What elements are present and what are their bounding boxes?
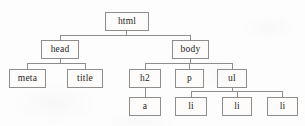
node-label: meta bbox=[18, 74, 37, 84]
node-title[interactable]: title bbox=[67, 69, 103, 88]
node-label: h2 bbox=[140, 74, 150, 84]
node-label: p bbox=[187, 74, 192, 84]
node-h2[interactable]: h2 bbox=[129, 69, 161, 88]
node-label: body bbox=[181, 45, 201, 55]
node-label: li bbox=[188, 102, 194, 112]
edge-head-bus bbox=[27, 63, 86, 64]
node-label: ul bbox=[228, 74, 236, 84]
node-meta[interactable]: meta bbox=[9, 69, 46, 88]
node-label: a bbox=[143, 102, 147, 112]
node-html[interactable]: html bbox=[105, 12, 149, 31]
edge-h2-to-a bbox=[145, 88, 146, 97]
node-head[interactable]: head bbox=[41, 40, 79, 59]
node-p[interactable]: p bbox=[175, 69, 204, 88]
edge-html-bus bbox=[60, 35, 191, 36]
node-label: head bbox=[51, 45, 70, 55]
node-a[interactable]: a bbox=[129, 97, 161, 116]
node-ul[interactable]: ul bbox=[217, 69, 247, 88]
node-body[interactable]: body bbox=[172, 40, 209, 59]
node-li-1[interactable]: li bbox=[175, 97, 207, 116]
node-li-2[interactable]: li bbox=[222, 97, 252, 116]
node-label: li bbox=[280, 102, 286, 112]
node-li-3[interactable]: li bbox=[267, 97, 298, 116]
node-label: html bbox=[118, 17, 136, 27]
node-label: li bbox=[234, 102, 240, 112]
node-label: title bbox=[77, 74, 93, 84]
dom-tree-diagram: html head body meta title h2 p ul a li l… bbox=[0, 0, 305, 126]
